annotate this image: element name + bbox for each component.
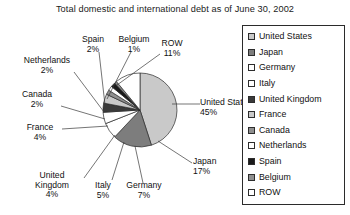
leader-line-japan <box>158 141 192 163</box>
legend-item-netherlands[interactable]: Netherlands <box>248 138 344 154</box>
legend-swatch-icon <box>248 174 255 181</box>
leader-line-united-kingdom <box>84 135 115 178</box>
legend-item-italy[interactable]: Italy <box>248 76 344 92</box>
legend-swatch-icon <box>248 49 255 56</box>
legend-item-france[interactable]: France <box>248 107 344 123</box>
legend-swatch-icon <box>248 64 255 71</box>
leader-line-netherlands <box>74 72 104 112</box>
callout-spain: Spain 2% <box>75 35 111 54</box>
legend-item-label: United States <box>259 32 312 41</box>
legend-swatch-icon <box>248 33 255 40</box>
legend-swatch-icon <box>248 127 255 134</box>
callout-canada: Canada 2% <box>11 90 63 109</box>
legend-swatch-icon <box>248 80 255 87</box>
legend-item-united-states[interactable]: United States <box>248 29 344 45</box>
leader-line-italy <box>112 142 124 180</box>
legend-swatch-icon <box>248 96 255 103</box>
callout-belgium: Belgium 1% <box>111 35 157 54</box>
legend-swatch-icon <box>248 189 255 196</box>
callout-netherlands: Netherlands 2% <box>16 56 78 75</box>
leader-line-france <box>62 126 108 129</box>
pie-chart-figure: Total domestic and international debt as… <box>0 0 350 215</box>
callout-japan: Japan 17% <box>193 157 216 176</box>
callout-row: ROW 11% <box>155 39 189 58</box>
callout-united-kingdom: United Kingdom 4% <box>22 171 82 200</box>
legend-swatch-icon <box>248 142 255 149</box>
legend-item-canada[interactable]: Canada <box>248 123 344 139</box>
legend-item-belgium[interactable]: Belgium <box>248 169 344 185</box>
legend-item-united-kingdom[interactable]: United Kingdom <box>248 91 344 107</box>
chart-legend: United StatesJapanGermanyItalyUnited Kin… <box>242 25 345 205</box>
legend-item-label: Spain <box>259 157 282 166</box>
legend-item-label: Canada <box>259 126 290 135</box>
legend-item-germany[interactable]: Germany <box>248 60 344 76</box>
legend-item-label: Germany <box>259 63 295 72</box>
leader-line-canada <box>61 106 105 119</box>
leader-line-germany <box>135 146 143 183</box>
legend-item-label: Netherlands <box>259 141 306 150</box>
legend-item-label: Italy <box>259 79 275 88</box>
legend-item-spain[interactable]: Spain <box>248 154 344 170</box>
legend-item-row[interactable]: ROW <box>248 185 344 201</box>
legend-item-label: ROW <box>259 188 281 197</box>
legend-item-label: Japan <box>259 48 283 57</box>
legend-swatch-icon <box>248 111 255 118</box>
callout-france: France 4% <box>17 123 63 142</box>
callout-germany: Germany 7% <box>118 181 170 200</box>
legend-item-label: Belgium <box>259 173 291 182</box>
leader-line-spain <box>99 52 105 105</box>
callout-italy: Italy 5% <box>86 181 120 200</box>
legend-item-label: United Kingdom <box>259 95 322 104</box>
legend-swatch-icon <box>248 158 255 165</box>
legend-item-japan[interactable]: Japan <box>248 45 344 61</box>
legend-item-label: France <box>259 110 286 119</box>
